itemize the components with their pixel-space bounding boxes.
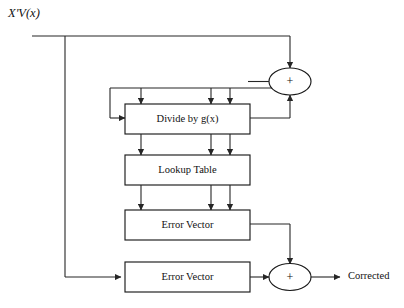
block-divide-by-gx-label: Divide by g(x)	[157, 113, 219, 125]
adder-bottom-sign: +	[287, 270, 294, 284]
diagram-canvas: X'V(x) Divide by g(x) +	[0, 0, 404, 308]
block-lookup-table-label: Lookup Table	[158, 164, 217, 175]
input-signal-label: X'V(x)	[7, 6, 40, 20]
block-error-vector-1-label: Error Vector	[162, 219, 214, 230]
adder-top-sign: +	[287, 74, 294, 88]
block-error-vector-2-label: Error Vector	[162, 271, 214, 282]
output-signal-label: Corrected	[348, 270, 390, 281]
block-diagram: X'V(x) Divide by g(x) +	[0, 0, 404, 308]
